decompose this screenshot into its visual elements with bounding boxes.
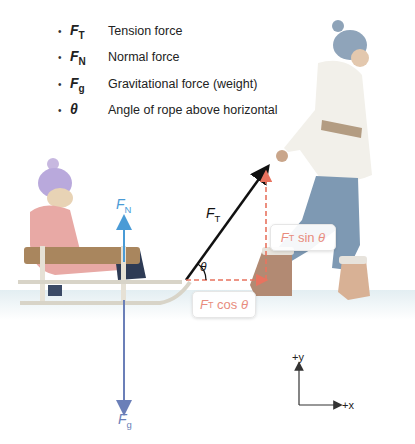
free-body-diagram: • FT Tension force • FN Normal force • F… <box>0 0 415 444</box>
adult-pulling-rope <box>250 20 372 300</box>
normal-force-label: FN <box>116 196 131 215</box>
tension-force-arrow <box>186 172 264 280</box>
tension-force-label: FT <box>206 205 220 224</box>
gravity-force-label: Fg <box>118 411 132 430</box>
x-axis-label: +x <box>342 399 354 411</box>
horizontal-component-label: FT cos θ <box>192 291 256 318</box>
angle-label: θ <box>200 260 207 274</box>
y-axis-label: +y <box>292 351 304 363</box>
vertical-component-label: FT sin θ <box>270 224 336 251</box>
child-on-sled <box>18 158 190 303</box>
